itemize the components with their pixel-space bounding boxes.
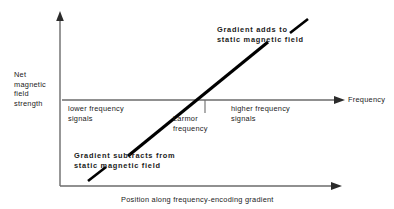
frequency-axis-label: Frequency: [348, 95, 385, 105]
annotation-lower-frequency: lower frequency signals: [68, 104, 124, 123]
annotation-higher-frequency: higher frequency signals: [231, 104, 290, 123]
x-axis: [60, 182, 342, 190]
annotation-gradient-adds: Gradient adds to static magnetic field: [217, 25, 304, 45]
gradient-line-icon: [128, 42, 268, 156]
arrow-right-icon: [331, 182, 342, 190]
arrow-right-icon: [334, 96, 345, 104]
arrow-up-icon: [56, 11, 64, 21]
diagram-canvas: Net magnetic field strength Frequency lo…: [0, 0, 394, 209]
x-axis-label: Position along frequency-encoding gradie…: [121, 195, 274, 205]
y-axis: [56, 11, 64, 186]
frequency-axis: [62, 96, 345, 104]
annotation-gradient-subtracts: Gradient subtracts from static magnetic …: [74, 151, 175, 171]
annotation-larmor-frequency: Larmor frequency: [173, 114, 208, 133]
diagram-graphics: [0, 0, 394, 209]
y-axis-label: Net magnetic field strength: [14, 70, 46, 108]
